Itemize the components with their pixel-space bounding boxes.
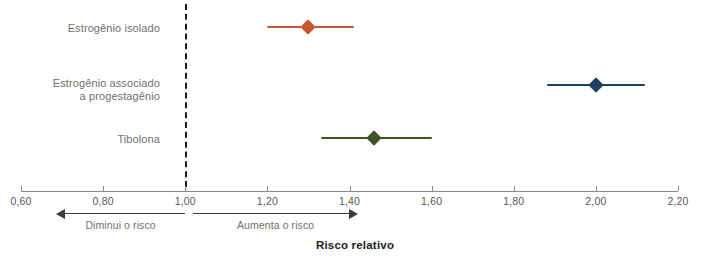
x-axis-title: Risco relativo [0, 239, 702, 251]
x-axis-tick-mark [432, 186, 433, 191]
point-estimate-marker-row-2 [588, 77, 604, 93]
x-axis-tick-mark [185, 186, 186, 191]
x-axis-tick-label: 2,00 [585, 195, 606, 207]
x-axis-tick-mark [21, 186, 22, 191]
forest-plot-chart: Estrogênio isolado Estrogênio associado … [0, 0, 702, 260]
x-axis-tick-mark [678, 186, 679, 191]
arrow-line-right [193, 213, 348, 214]
x-axis-line [21, 191, 678, 192]
arrow-head-right-icon [349, 209, 358, 219]
row-label-estrogenio-isolado: Estrogênio isolado [0, 22, 160, 35]
row-label-tibolona: Tibolona [0, 133, 160, 146]
annotation-increase-risk: Aumenta o risco [193, 206, 357, 236]
x-axis-tick-mark [267, 186, 268, 191]
point-estimate-marker-row-1 [301, 19, 317, 35]
x-axis-tick-label: 2,20 [667, 195, 688, 207]
arrow-line-left [65, 213, 185, 214]
x-axis-tick-label: 1,60 [421, 195, 442, 207]
reference-line-null-effect [185, 4, 187, 187]
x-axis-tick-mark [350, 186, 351, 191]
x-axis-tick-mark [596, 186, 597, 191]
x-axis-tick-mark [514, 186, 515, 191]
x-axis-title-text: Risco relativo [316, 239, 394, 251]
x-axis-tick-label: 0,60 [10, 195, 31, 207]
x-axis-tick-label: 1,80 [503, 195, 524, 207]
annotation-decrease-label: Diminui o risco [56, 219, 185, 231]
point-estimate-marker-row-3 [366, 130, 382, 146]
plot-area: Estrogênio isolado Estrogênio associado … [0, 0, 702, 192]
x-axis-tick-mark [103, 186, 104, 191]
annotation-decrease-risk: Diminui o risco [56, 206, 185, 236]
annotation-increase-label: Aumenta o risco [193, 219, 357, 231]
row-label-estrogenio-associado-progestagenio: Estrogênio associado a progestagênio [0, 77, 160, 103]
arrow-head-left-icon [56, 209, 65, 219]
